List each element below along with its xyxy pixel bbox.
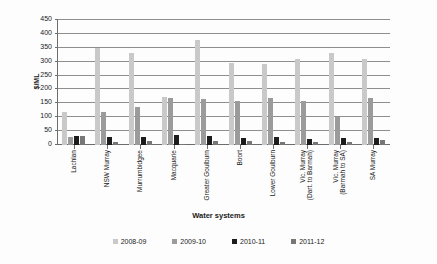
y-tick-mark	[55, 102, 58, 103]
x-axis-label-9: SA Murray	[357, 150, 390, 205]
legend-swatch-icon	[113, 239, 118, 244]
x-axis-label-7: Vic. Murray(Dart. to Barmah)	[290, 150, 323, 205]
x-axis-label-line: (Barmah to SA)	[339, 150, 347, 195]
x-axis-label-line: SA Murray	[369, 150, 377, 180]
legend-item-2010-11[interactable]: 2010-11	[232, 238, 265, 245]
x-axis-label-line: Murrumbidgee	[136, 150, 144, 192]
y-tick-label: 300	[26, 57, 52, 64]
y-tick-mark	[55, 47, 58, 48]
x-tick-mark	[174, 145, 175, 149]
legend-swatch-icon	[172, 239, 177, 244]
gridline	[58, 75, 390, 76]
y-tick-mark	[55, 33, 58, 34]
chart-legend: 2008-092009-102010-112011-12	[0, 238, 437, 245]
x-axis-label-line: Lower Goulburn	[269, 150, 277, 196]
gridline	[58, 130, 390, 131]
legend-item-2011-12[interactable]: 2011-12	[291, 238, 324, 245]
x-axis-label-8: Vic. Murray(Barmah to SA)	[323, 150, 356, 205]
legend-label: 2009-10	[180, 238, 206, 245]
y-tick-mark	[55, 116, 58, 117]
legend-item-2009-10[interactable]: 2009-10	[172, 238, 206, 245]
x-axis-label-6: Lower Goulburn	[257, 150, 290, 205]
y-tick-label: 150	[26, 98, 52, 105]
bar-chart-figure: $/ML 450400350300250200150100500 Lachlan…	[0, 0, 437, 264]
gridline	[58, 33, 390, 34]
gridline	[58, 116, 390, 117]
legend-label: 2010-11	[240, 238, 265, 245]
gridline	[58, 88, 390, 89]
x-axis-label-3: Macquarie	[157, 150, 190, 205]
y-tick-label: 50	[26, 126, 52, 133]
x-tick-cell	[124, 145, 157, 149]
y-tick-label: 350	[26, 43, 52, 50]
x-tick-cell	[157, 145, 190, 149]
y-tick-mark	[55, 130, 58, 131]
x-axis-label-2: Murrumbidgee	[124, 150, 157, 205]
gridline	[58, 102, 390, 103]
x-tick-mark	[307, 145, 308, 149]
x-tick-mark	[207, 145, 208, 149]
x-axis-label-line: Lachlan	[70, 150, 78, 173]
x-axis-label-0: Lachlan	[57, 150, 90, 205]
x-axis-label-1: NSW Murray	[90, 150, 123, 205]
gridline	[58, 19, 390, 20]
x-tick-mark	[107, 145, 108, 149]
x-tick-mark	[273, 145, 274, 149]
y-tick-label: 100	[26, 112, 52, 119]
x-tick-mark	[140, 145, 141, 149]
x-axis-title: Water systems	[0, 211, 437, 220]
x-axis-label-line: Macquarie	[170, 150, 178, 180]
legend-item-2008-09[interactable]: 2008-09	[113, 238, 147, 245]
x-tick-mark	[373, 145, 374, 149]
x-tick-cell	[357, 145, 390, 149]
y-tick-mark	[55, 19, 58, 20]
x-tick-mark	[340, 145, 341, 149]
legend-swatch-icon	[232, 239, 237, 244]
x-axis-labels: LachlanNSW MurrayMurrumbidgeeMacquarieGr…	[57, 150, 390, 205]
x-axis-label-line: Boort	[236, 150, 244, 166]
gridline	[58, 61, 390, 62]
y-tick-mark	[55, 61, 58, 62]
x-axis-label-line: NSW Murray	[103, 150, 111, 187]
gridline	[58, 47, 390, 48]
x-tick-cell	[290, 145, 323, 149]
x-tick-cell	[257, 145, 290, 149]
y-tick-label: 0	[26, 140, 52, 147]
x-axis-label-5: Boort	[223, 150, 256, 205]
y-tick-mark	[55, 88, 58, 89]
x-axis-ticks	[57, 145, 390, 149]
x-tick-mark	[74, 145, 75, 149]
y-tick-label: 200	[26, 84, 52, 91]
x-axis-label-4: Greater Goulburn	[190, 150, 223, 205]
y-tick-label: 450	[26, 15, 52, 22]
x-tick-cell	[57, 145, 90, 149]
x-tick-mark	[240, 145, 241, 149]
x-axis-label-line: (Dart. to Barmah)	[306, 150, 314, 200]
legend-label: 2008-09	[121, 238, 147, 245]
plot-area: 450400350300250200150100500	[57, 19, 390, 145]
x-tick-cell	[190, 145, 223, 149]
legend-swatch-icon	[291, 239, 296, 244]
y-tick-label: 400	[26, 29, 52, 36]
legend-label: 2011-12	[299, 238, 324, 245]
x-tick-cell	[90, 145, 123, 149]
x-tick-cell	[223, 145, 256, 149]
x-tick-cell	[323, 145, 356, 149]
y-tick-label: 250	[26, 71, 52, 78]
y-tick-mark	[55, 75, 58, 76]
x-axis-label-line: Greater Goulburn	[203, 150, 211, 201]
